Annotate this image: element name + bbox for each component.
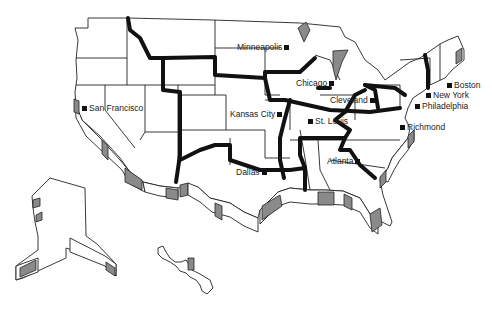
city-marker-icon — [355, 159, 360, 164]
city-marker-icon — [308, 119, 313, 124]
hawaii — [158, 246, 213, 294]
city-name: Boston — [454, 80, 480, 90]
city-marker-icon — [415, 104, 420, 109]
city-marker-icon — [447, 83, 452, 88]
city-san-francisco: San Francisco — [80, 103, 143, 113]
city-marker-icon — [370, 98, 375, 103]
city-name: St. Louis — [315, 116, 348, 126]
city-name: Atlanta — [327, 156, 353, 166]
city-atlanta: Atlanta — [327, 156, 362, 166]
city-minneapolis: Minneapolis — [237, 42, 291, 52]
city-marker-icon — [426, 93, 431, 98]
city-chicago: Chicago — [296, 78, 336, 88]
city-marker-icon — [329, 81, 334, 86]
city-name: Richmond — [407, 122, 445, 132]
city-marker-icon — [400, 125, 405, 130]
city-name: Kansas City — [230, 109, 275, 119]
city-name: Dallas — [236, 167, 260, 177]
city-new-york: New York — [424, 90, 469, 100]
city-name: Minneapolis — [237, 42, 282, 52]
city-kansas-city: Kansas City — [230, 109, 284, 119]
city-name: Chicago — [296, 78, 327, 88]
city-marker-icon — [284, 45, 289, 50]
alaska — [16, 178, 116, 280]
city-name: San Francisco — [89, 103, 143, 113]
city-st-louis: St. Louis — [306, 116, 348, 126]
city-marker-icon — [277, 112, 282, 117]
city-name: Philadelphia — [422, 101, 468, 111]
city-marker-icon — [82, 106, 87, 111]
city-name: New York — [433, 90, 469, 100]
city-marker-icon — [262, 170, 267, 175]
city-philadelphia: Philadelphia — [413, 101, 468, 111]
city-boston: Boston — [445, 80, 480, 90]
city-name: Cleveland — [330, 95, 368, 105]
city-richmond: Richmond — [398, 122, 445, 132]
city-dallas: Dallas — [236, 167, 269, 177]
city-cleveland: Cleveland — [330, 95, 377, 105]
